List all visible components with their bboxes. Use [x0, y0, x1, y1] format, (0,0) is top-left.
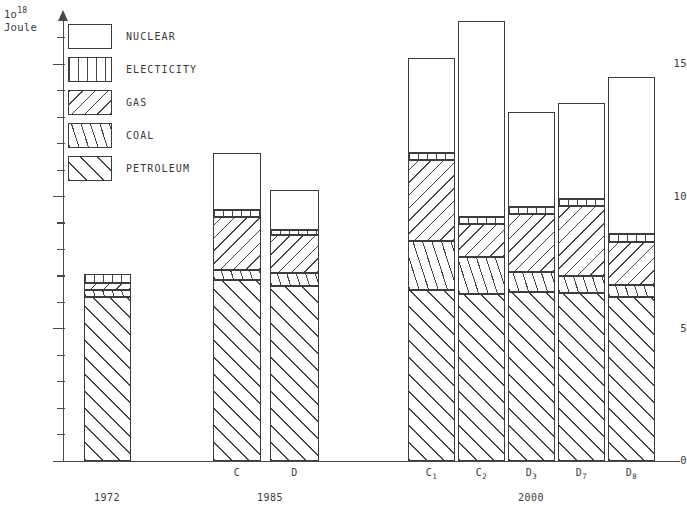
x-axis-label-D8: D8 — [608, 467, 655, 481]
legend-label-gas: GAS — [126, 97, 147, 108]
bar-D — [270, 191, 319, 461]
bar-segment-gas — [84, 283, 131, 290]
y-tick-minor — [57, 302, 65, 303]
x-axis-label-D3: D3 — [508, 467, 555, 481]
y-tick-minor — [57, 434, 65, 435]
y-tick-label-5: 5 — [651, 322, 687, 334]
y-tick-minor — [57, 143, 65, 144]
y-tick-label-15: 15 — [651, 57, 687, 69]
bar-D8 — [608, 77, 655, 461]
unit-name: Joule — [4, 21, 37, 33]
legend-swatch-gas-icon — [68, 90, 112, 115]
legend-swatch-coal-icon — [68, 123, 112, 148]
y-tick-minor — [57, 90, 65, 91]
y-tick-major — [53, 328, 65, 329]
y-tick-minor — [57, 275, 65, 276]
bar-segment-gas — [213, 217, 261, 270]
bar-segment-petroleum — [458, 294, 505, 461]
bar-segment-coal — [558, 276, 605, 293]
y-tick-major — [53, 196, 65, 197]
bar-segment-gas — [608, 242, 655, 285]
bar-D3 — [508, 112, 555, 461]
y-tick-minor — [57, 249, 65, 250]
y-tick-minor — [57, 355, 65, 356]
bar-C — [213, 165, 261, 461]
legend-label-electicity: ELECTICITY — [126, 64, 197, 75]
bar-segment-coal — [408, 241, 455, 291]
bar-C1 — [408, 59, 455, 461]
bar-segment-coal — [213, 270, 261, 280]
bar-segment-coal — [508, 272, 555, 292]
bar-segment-nuclear — [270, 190, 319, 230]
y-tick-minor — [57, 222, 65, 223]
chart-canvas: 1o18 Joule 151050 NUCLEARELECTICITYGASCO… — [0, 0, 687, 515]
bar-segment-electicity — [213, 210, 261, 217]
bar-segment-coal — [84, 290, 131, 297]
x-axis-label-D: D — [270, 467, 319, 478]
bar-segment-petroleum — [84, 297, 131, 461]
bar-segment-nuclear — [558, 103, 605, 199]
x-axis-label-C: C — [213, 467, 261, 478]
bar-segment-nuclear — [408, 58, 455, 153]
legend-swatch-petroleum-icon — [68, 156, 112, 181]
bar-segment-coal — [608, 285, 655, 297]
y-tick-label-10: 10 — [651, 190, 687, 202]
x-axis-group-label-2000: 2000 — [491, 492, 571, 503]
x-axis-label-D7: D7 — [558, 467, 605, 481]
bar-C2 — [458, 22, 505, 461]
y-tick-minor — [57, 381, 65, 382]
legend-swatch-electicity-icon — [68, 57, 112, 82]
bar-segment-petroleum — [608, 297, 655, 461]
bar-D7 — [558, 104, 605, 461]
y-tick-minor — [57, 117, 65, 118]
bar-segment-petroleum — [508, 292, 555, 461]
bar-segment-electicity — [270, 230, 319, 235]
bar-segment-electicity — [558, 199, 605, 206]
legend-label-petroleum: PETROLEUM — [126, 163, 190, 174]
bar-segment-gas — [508, 214, 555, 272]
bar-segment-electicity — [408, 153, 455, 160]
unit-exponent: 18 — [17, 6, 27, 15]
legend-swatch-nuclear-icon — [68, 24, 112, 49]
x-axis-group-label-1972: 1972 — [67, 492, 147, 503]
y-tick-minor — [57, 170, 65, 171]
bar-segment-nuclear — [508, 112, 555, 207]
y-tick-major — [53, 64, 65, 65]
bar-segment-petroleum — [558, 293, 605, 461]
y-tick-minor — [57, 37, 65, 38]
bar-segment-nuclear — [213, 153, 261, 210]
y-tick-label-0: 0 — [651, 454, 687, 466]
bar-segment-nuclear — [458, 21, 505, 217]
y-tick-major — [53, 461, 65, 462]
y-axis-line — [63, 18, 64, 462]
bar-segment-gas — [408, 160, 455, 241]
y-axis-unit-label: 1o18 Joule — [4, 4, 37, 34]
x-axis-label-C1: C1 — [408, 467, 455, 481]
bar-segment-gas — [458, 224, 505, 257]
y-tick-minor — [57, 408, 65, 409]
legend-label-coal: COAL — [126, 130, 154, 141]
bar-segment-gas — [270, 235, 319, 274]
unit-prefix: 1o — [4, 8, 17, 20]
bar-1972 — [84, 275, 131, 461]
bar-segment-petroleum — [408, 290, 455, 461]
x-axis-group-label-1985: 1985 — [230, 492, 310, 503]
bar-segment-electicity — [458, 217, 505, 224]
bar-segment-nuclear — [608, 77, 655, 234]
x-axis-line — [63, 461, 680, 462]
legend-label-nuclear: NUCLEAR — [126, 31, 176, 42]
x-axis-label-C2: C2 — [458, 467, 505, 481]
bar-segment-gas — [558, 206, 605, 276]
bar-segment-electicity — [508, 207, 555, 214]
bar-segment-electicity — [84, 274, 131, 283]
bar-segment-electicity — [608, 234, 655, 242]
bar-segment-coal — [458, 257, 505, 295]
bar-segment-coal — [270, 273, 319, 286]
bar-segment-petroleum — [213, 280, 261, 461]
bar-segment-petroleum — [270, 286, 319, 461]
